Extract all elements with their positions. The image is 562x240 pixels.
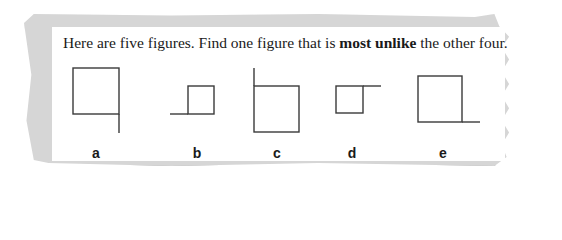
figure-b[interactable] [170, 86, 214, 114]
figure-c[interactable] [254, 68, 299, 132]
figure-label-e: e [433, 145, 453, 161]
figure-e[interactable] [418, 76, 480, 122]
figure-label-a: a [86, 145, 106, 161]
figure-label-d: d [342, 145, 362, 161]
figure-label-b: b [187, 145, 207, 161]
figure-a[interactable] [73, 68, 119, 133]
figure-d[interactable] [336, 86, 381, 113]
figure-label-c: c [267, 145, 287, 161]
